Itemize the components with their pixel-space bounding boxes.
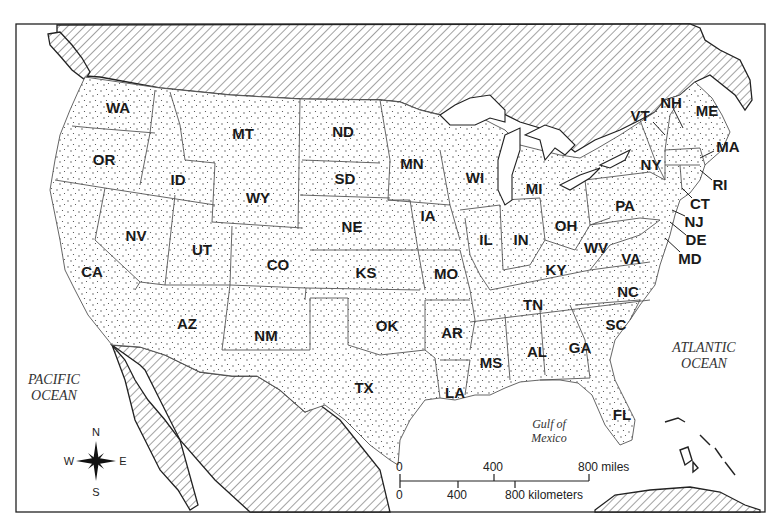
state-label-tx: TX (354, 379, 373, 396)
state-label-mt: MT (232, 125, 254, 142)
state-label-mi: MI (526, 180, 543, 197)
atlantic-ocean-label-2: OCEAN (681, 356, 728, 371)
state-label-la: LA (445, 384, 465, 401)
state-label-sc: SC (606, 316, 627, 333)
us-map: WAORCANVIDMTWYUTCOAZNMNDSDNEKSOKTXMNIAMO… (0, 0, 775, 523)
scale-miles-800: 800 miles (578, 460, 629, 474)
state-label-in: IN (514, 231, 529, 248)
state-label-mo: MO (434, 265, 458, 282)
state-label-nv: NV (126, 227, 147, 244)
state-label-ky: KY (546, 261, 567, 278)
state-label-il: IL (479, 231, 492, 248)
scale-miles-400: 400 (483, 460, 503, 474)
scale-miles-0: 0 (396, 460, 403, 474)
state-label-wy: WY (246, 189, 270, 206)
state-label-ut: UT (192, 241, 212, 258)
state-label-ms: MS (480, 354, 503, 371)
pacific-ocean-label-2: OCEAN (31, 388, 78, 403)
scale-km-800: 800 kilometers (505, 488, 583, 502)
state-label-ar: AR (441, 324, 463, 341)
state-label-nd: ND (332, 123, 354, 140)
gulf-of-mexico-label-2: Mexico (530, 431, 566, 445)
state-label-mn: MN (400, 155, 423, 172)
state-label-ny: NY (641, 156, 662, 173)
atlantic-ocean-label: ATLANTIC (671, 340, 736, 355)
gulf-of-mexico-label: Gulf of (532, 417, 567, 431)
state-label-nh: NH (660, 94, 682, 111)
state-label-ok: OK (376, 317, 399, 334)
state-label-id: ID (171, 171, 186, 188)
scale-km-0: 0 (396, 488, 403, 502)
state-label-al: AL (527, 343, 547, 360)
scale-km-400: 400 (447, 488, 467, 502)
state-label-ri: RI (713, 176, 728, 193)
state-label-ia: IA (421, 207, 436, 224)
pacific-ocean-label: PACIFIC (27, 372, 81, 387)
state-label-pa: PA (615, 197, 635, 214)
state-label-sd: SD (335, 170, 356, 187)
state-label-wi: WI (466, 169, 484, 186)
compass-s: S (92, 486, 99, 498)
state-label-nc: NC (617, 283, 639, 300)
state-label-wv: WV (584, 239, 608, 256)
state-label-co: CO (267, 256, 290, 273)
state-label-ca: CA (81, 263, 103, 280)
compass-n: N (92, 426, 100, 438)
state-label-ne: NE (342, 218, 363, 235)
state-label-tn: TN (523, 296, 543, 313)
state-label-me: ME (696, 102, 719, 119)
state-label-fl: FL (613, 406, 631, 423)
state-label-ct: CT (690, 195, 710, 212)
state-label-va: VA (621, 250, 641, 267)
state-label-az: AZ (177, 315, 197, 332)
state-label-ga: GA (569, 339, 592, 356)
compass-w: W (64, 455, 75, 467)
state-label-oh: OH (555, 217, 578, 234)
state-label-wa: WA (106, 99, 130, 116)
state-label-de: DE (686, 231, 707, 248)
state-label-or: OR (93, 151, 116, 168)
compass-e: E (119, 455, 126, 467)
state-label-nm: NM (254, 327, 277, 344)
state-label-nj: NJ (684, 213, 703, 230)
state-label-ks: KS (356, 264, 377, 281)
state-label-md: MD (678, 250, 701, 267)
state-label-vt: VT (630, 107, 649, 124)
state-label-ma: MA (716, 138, 739, 155)
